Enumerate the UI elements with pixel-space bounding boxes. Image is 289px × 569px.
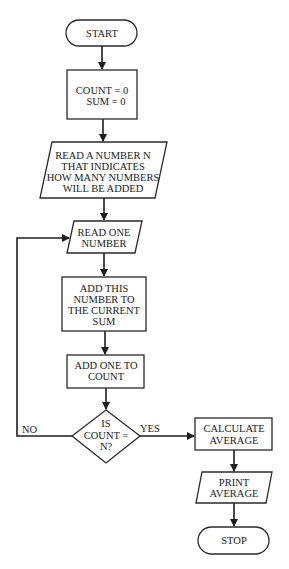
calc-average-process-box: CALCULATE AVERAGE bbox=[195, 418, 272, 450]
no-label: NO bbox=[22, 424, 38, 435]
add-sum-process-box: ADD THIS NUMBER TO THE CURRENT SUM bbox=[62, 277, 146, 331]
read-n-line-4: WILL BE ADDED bbox=[63, 183, 144, 194]
calc-line-2: AVERAGE bbox=[210, 435, 259, 446]
add-sum-line-2: NUMBER TO bbox=[73, 294, 135, 305]
read-one-line-2: NUMBER bbox=[82, 238, 127, 249]
read-n-input: READ A NUMBER N THAT INDICATES HOW MANY … bbox=[40, 142, 167, 198]
calc-line-1: CALCULATE bbox=[203, 423, 264, 434]
flowchart: START COUNT = 0 SUM = 0 READ A NUMBER N … bbox=[0, 0, 289, 569]
decision-line-2: COUNT = bbox=[84, 430, 129, 441]
init-line-2: SUM = 0 bbox=[86, 96, 125, 107]
print-line-2: AVERAGE bbox=[210, 488, 259, 499]
add-sum-line-1: ADD THIS bbox=[80, 283, 129, 294]
decision-line-1: IS bbox=[101, 418, 110, 429]
read-n-line-1: READ A NUMBER N bbox=[55, 150, 151, 161]
stop-terminal: STOP bbox=[198, 527, 269, 554]
init-line-1: COUNT = 0 bbox=[76, 85, 128, 96]
decision-diamond: IS COUNT = N? bbox=[72, 410, 140, 463]
start-terminal: START bbox=[66, 20, 137, 46]
add-sum-line-4: SUM bbox=[93, 316, 116, 327]
add-sum-line-3: THE CURRENT bbox=[68, 305, 141, 316]
init-process-box: COUNT = 0 SUM = 0 bbox=[67, 70, 137, 119]
stop-label: STOP bbox=[221, 535, 247, 546]
decision-line-3: N? bbox=[100, 441, 113, 452]
add-count-process-box: ADD ONE TO COUNT bbox=[67, 355, 144, 388]
read-one-line-1: READ ONE bbox=[78, 227, 131, 238]
print-line-1: PRINT bbox=[219, 477, 250, 488]
start-label: START bbox=[86, 28, 118, 39]
loop-no-back-to-read-one bbox=[17, 238, 72, 436]
read-one-input: READ ONE NUMBER bbox=[67, 221, 142, 253]
read-n-line-2: THAT INDICATES bbox=[61, 161, 145, 172]
yes-label: YES bbox=[140, 423, 160, 434]
add-count-line-1: ADD ONE TO bbox=[74, 360, 138, 371]
read-n-line-3: HOW MANY NUMBERS bbox=[47, 172, 160, 183]
print-average-output: PRINT AVERAGE bbox=[196, 472, 272, 503]
add-count-line-2: COUNT bbox=[88, 371, 125, 382]
